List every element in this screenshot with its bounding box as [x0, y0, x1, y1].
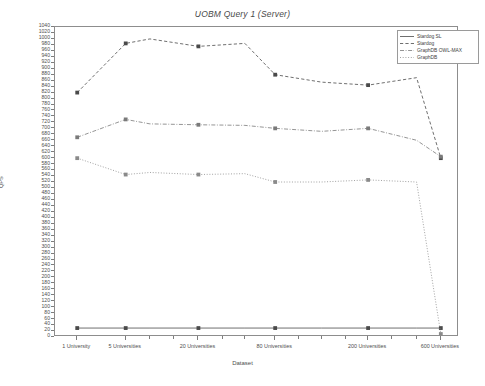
legend-item[interactable]: GraphDB: [400, 54, 476, 61]
y-axis-tick-label: 140: [42, 292, 51, 297]
series-marker: [439, 326, 443, 330]
series-layer: [55, 27, 459, 337]
x-axis-tick-label: 600 Universities: [421, 343, 459, 349]
series-marker: [439, 155, 443, 159]
x-axis-minor-tick-mark: [345, 336, 346, 339]
legend-line-swatch: [400, 41, 414, 46]
x-axis-tick-label: 80 Universities: [256, 343, 291, 349]
series-marker: [366, 126, 370, 130]
series-line: [77, 158, 441, 334]
plot-area: [54, 26, 458, 336]
x-axis-title: Dataset: [0, 360, 485, 366]
legend-line-swatch: [400, 48, 414, 53]
x-axis-tick-label: 5 Universities: [109, 343, 141, 349]
chart-container: UOBM Query 1 (Server) QPS 10401020100098…: [0, 0, 485, 386]
chart-legend: Stardog SLStardogGraphDB OWL-MAXGraphDB: [397, 30, 479, 64]
y-axis-tick-label: 100: [42, 304, 51, 309]
series-marker: [197, 123, 201, 127]
series-marker: [197, 326, 201, 330]
x-axis-tick-mark: [367, 336, 368, 340]
x-axis-minor-tick-mark: [416, 336, 417, 339]
legend-item[interactable]: Stardog SL: [400, 33, 476, 40]
y-axis-tick-label: 120: [42, 298, 51, 303]
x-axis-tick-mark: [76, 336, 77, 340]
series-marker: [197, 173, 201, 177]
y-axis-tick-label: 600: [42, 155, 51, 160]
series-marker: [366, 178, 370, 182]
legend-item-label: Stardog SL: [417, 34, 441, 39]
x-axis-tick-labels: 1 University5 Universities20 Universitie…: [54, 336, 458, 358]
series-marker: [273, 73, 277, 77]
x-axis-minor-tick-mark: [298, 336, 299, 339]
x-axis-minor-tick-mark: [244, 336, 245, 339]
series-marker: [273, 180, 277, 184]
series-marker: [366, 326, 370, 330]
series-marker: [124, 326, 128, 330]
series-marker: [366, 83, 370, 87]
x-axis-tick-mark: [197, 336, 198, 340]
chart-title: UOBM Query 1 (Server): [0, 9, 485, 19]
legend-item[interactable]: Stardog: [400, 40, 476, 47]
series-marker: [75, 91, 79, 95]
x-axis-minor-tick-mark: [149, 336, 150, 339]
x-axis-tick-label: 1 University: [62, 343, 90, 349]
series-marker: [75, 156, 79, 160]
series-marker: [197, 44, 201, 48]
series-marker: [75, 326, 79, 330]
series-line: [77, 39, 441, 158]
legend-line-swatch: [400, 55, 414, 60]
x-axis-tick-mark: [440, 336, 441, 340]
y-axis-tick-label: 80: [44, 310, 50, 315]
legend-item[interactable]: GraphDB OWL-MAX: [400, 47, 476, 54]
y-axis-tick-labels: 1040102010009809609409209008808608408208…: [0, 26, 54, 336]
x-axis-tick-mark: [125, 336, 126, 340]
x-axis-minor-tick-mark: [173, 336, 174, 339]
x-axis-tick-label: 20 Universities: [180, 343, 215, 349]
series-marker: [273, 126, 277, 130]
x-axis-minor-tick-mark: [222, 336, 223, 339]
y-axis-tick-label: 640: [42, 143, 51, 148]
y-axis-tick-label: 620: [42, 149, 51, 154]
y-axis-tick-label: 0: [47, 333, 50, 338]
y-axis-tick-label: 660: [42, 137, 51, 142]
legend-item-label: Stardog: [417, 41, 434, 46]
series-line: [77, 119, 441, 156]
x-axis-tick-mark: [274, 336, 275, 340]
x-axis-minor-tick-mark: [321, 336, 322, 339]
series-marker: [273, 326, 277, 330]
legend-line-swatch: [400, 34, 414, 39]
series-marker: [124, 41, 128, 45]
x-axis-minor-tick-mark: [391, 336, 392, 339]
legend-item-label: GraphDB: [417, 55, 437, 60]
series-marker: [124, 173, 128, 177]
x-axis-tick-label: 200 Universities: [348, 343, 386, 349]
legend-item-label: GraphDB OWL-MAX: [417, 48, 462, 53]
series-marker: [124, 118, 128, 122]
series-marker: [75, 135, 79, 139]
